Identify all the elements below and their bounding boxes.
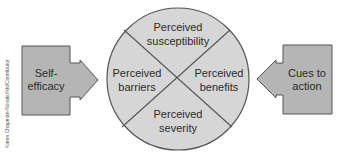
severity-label-line2: severity [159,122,197,134]
health-belief-model-diagram: Karen Chapman-Novakofski/Contributor Sel… [0,0,339,161]
self-efficacy-node: Self- efficacy [22,46,98,115]
susceptibility-label-line1: Perceived [154,21,203,33]
benefits-label-line1: Perceived [195,67,244,79]
barriers-label-line1: Perceived [113,67,162,79]
self-efficacy-label-line2: efficacy [27,80,65,92]
perceptions-circle: Perceived susceptibility Perceived barri… [107,8,249,150]
cues-to-action-label-line2: action [292,80,321,92]
barriers-label-line2: barriers [118,81,156,93]
susceptibility-label-line2: susceptibility [147,35,210,47]
benefits-label-line2: benefits [200,81,239,93]
self-efficacy-label-line1: Self- [35,67,58,79]
credit-text: Karen Chapman-Novakofski/Contributor [4,59,10,148]
cues-to-action-node: Cues to action [257,45,332,114]
cues-to-action-label-line1: Cues to [288,67,326,79]
severity-label-line1: Perceived [154,108,203,120]
